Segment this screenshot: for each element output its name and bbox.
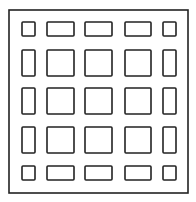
- grid-cell-r3-c2: [85, 127, 112, 153]
- grid-cell-r3-c0: [22, 127, 35, 153]
- grid-cell-r3-c4: [163, 127, 176, 153]
- grid-cell-r1-c0: [22, 50, 35, 76]
- grid-cell-r4-c0: [22, 166, 35, 180]
- grid-cell-r1-c2: [85, 50, 112, 76]
- grid-cell-r4-c1: [47, 166, 74, 180]
- grid-cell-r3-c3: [125, 127, 151, 153]
- grid-cell-r2-c0: [22, 88, 35, 114]
- grid-cell-r0-c0: [22, 22, 35, 36]
- grid-cell-r0-c1: [47, 22, 74, 36]
- cell-grid: [22, 22, 176, 180]
- grid-cell-r2-c2: [85, 88, 112, 114]
- grid-cell-r2-c4: [163, 88, 176, 114]
- grid-cell-r1-c1: [47, 50, 74, 76]
- grid-diagram: [0, 0, 196, 202]
- grid-cell-r4-c2: [85, 166, 112, 180]
- grid-cell-r2-c1: [47, 88, 74, 114]
- grid-cell-r0-c3: [125, 22, 151, 36]
- grid-cell-r4-c4: [163, 166, 176, 180]
- grid-cell-r0-c2: [85, 22, 112, 36]
- grid-cell-r4-c3: [125, 166, 151, 180]
- grid-cell-r2-c3: [125, 88, 151, 114]
- grid-cell-r0-c4: [163, 22, 176, 36]
- grid-cell-r1-c4: [163, 50, 176, 76]
- grid-cell-r1-c3: [125, 50, 151, 76]
- grid-cell-r3-c1: [47, 127, 74, 153]
